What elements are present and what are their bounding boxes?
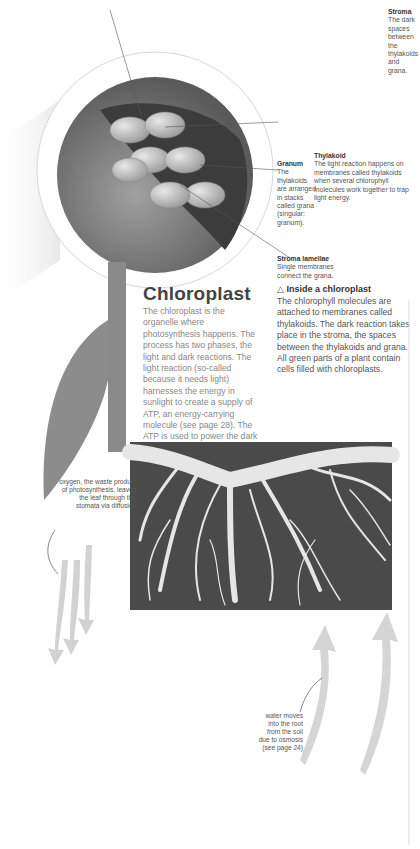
label-stroma-title: Stroma	[388, 8, 420, 16]
leaf	[44, 320, 108, 500]
water-arrows	[300, 612, 398, 775]
oxygen-annotation: oxygen, the waste product of photosynthe…	[58, 478, 136, 510]
label-thylakoid-body: The light reaction happens on membranes …	[314, 160, 414, 202]
water-annotation: water moves into the root from the soil …	[258, 712, 303, 752]
label-thylakoid: Thylakoid The light reaction happens on …	[314, 152, 414, 202]
label-granum-title: Granum	[277, 160, 317, 168]
label-stroma-body: The dark spaces between the thylakoids a…	[388, 16, 420, 75]
label-thylakoid-title: Thylakoid	[314, 152, 414, 160]
chloroplast-illustration	[0, 0, 418, 300]
oxygen-arrows	[48, 545, 94, 665]
label-stroma: Stroma The dark spaces between the thyla…	[388, 8, 420, 75]
plant-illustration	[0, 260, 418, 849]
stem	[108, 262, 126, 452]
label-granum-body: The thylakoids are arranged in stacks ca…	[277, 168, 317, 227]
label-granum: Granum The thylakoids are arranged in st…	[277, 160, 317, 227]
